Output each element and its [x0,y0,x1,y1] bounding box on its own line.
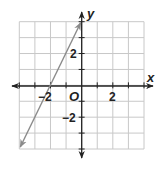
y-tick-label-2: 2 [70,47,77,61]
coordinate-graph: y x O −2 2 2 −2 [0,0,161,170]
x-axis-label: x [146,70,155,85]
x-tick-label-2: 2 [109,90,116,104]
x-tick-label-neg2: −2 [38,90,52,104]
y-axis-label: y [86,6,95,21]
origin-label: O [69,89,79,104]
y-tick-label-neg2: −2 [62,111,76,125]
